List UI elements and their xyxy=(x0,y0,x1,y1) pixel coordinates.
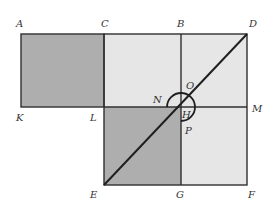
label-l: L xyxy=(89,112,97,123)
rectangle-akl c xyxy=(21,34,104,107)
label-b: B xyxy=(176,18,184,29)
label-o: O xyxy=(186,80,194,91)
label-k: K xyxy=(15,112,24,123)
label-c: C xyxy=(101,18,109,29)
label-a: A xyxy=(15,18,23,29)
label-g: G xyxy=(176,189,184,200)
geometry-diagram: A C B D K L M N O H P E G F xyxy=(0,0,278,211)
label-n: N xyxy=(152,94,163,105)
label-p: P xyxy=(184,125,192,136)
label-f: F xyxy=(247,189,256,200)
label-d: D xyxy=(248,18,257,29)
label-h: H xyxy=(181,109,191,120)
label-e: E xyxy=(89,189,98,200)
label-m: M xyxy=(251,103,263,114)
